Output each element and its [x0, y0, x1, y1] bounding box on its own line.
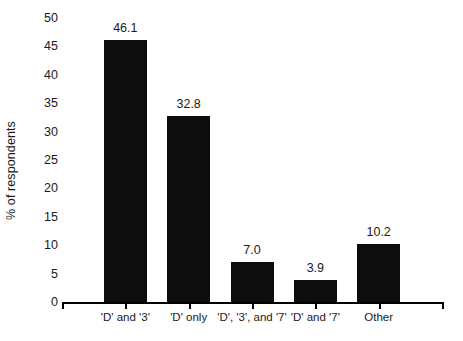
x-category-label: 'D' only	[170, 311, 207, 323]
bar[interactable]	[167, 116, 210, 302]
x-tick	[442, 302, 444, 309]
x-category-label: 'D', '3', and '7'	[217, 311, 286, 323]
bar[interactable]	[104, 40, 147, 302]
x-category-label: 'D' and '7'	[291, 311, 340, 323]
bar-group: 3.9	[294, 0, 337, 302]
bar[interactable]	[231, 262, 274, 302]
bar-value-label: 10.2	[366, 225, 390, 239]
bar-value-label: 3.9	[307, 261, 324, 275]
bar-value-label: 7.0	[243, 243, 260, 257]
x-tick	[252, 302, 254, 309]
x-axis-category-labels: 'D' and '3''D' only'D', '3', and '7''D' …	[0, 311, 463, 335]
x-tick	[315, 302, 317, 309]
bar-group: 32.8	[167, 0, 210, 302]
bar-group: 7.0	[231, 0, 274, 302]
x-tick	[62, 302, 64, 309]
bar-value-label: 32.8	[176, 97, 200, 111]
x-tick	[379, 302, 381, 309]
bar[interactable]	[294, 280, 337, 302]
bar-chart: % of respondents 05101520253035404550 46…	[0, 0, 463, 341]
x-tick	[189, 302, 191, 309]
x-category-label: 'D' and '3'	[101, 311, 150, 323]
bar-group: 46.1	[104, 0, 147, 302]
bar-value-label: 46.1	[113, 21, 137, 35]
x-tick	[125, 302, 127, 309]
bar-group: 10.2	[357, 0, 400, 302]
bar[interactable]	[357, 244, 400, 302]
x-category-label: Other	[364, 311, 393, 323]
bars-layer: 46.132.87.03.910.2	[0, 0, 463, 302]
